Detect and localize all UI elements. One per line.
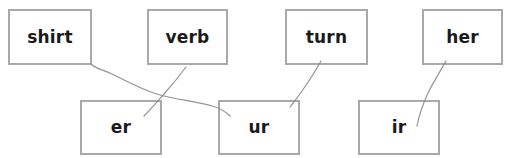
word-label-ur: ur xyxy=(249,119,270,136)
word-box-ir[interactable]: ir xyxy=(358,100,440,155)
word-box-her[interactable]: her xyxy=(422,9,503,65)
word-box-ur[interactable]: ur xyxy=(218,100,300,155)
word-label-turn: turn xyxy=(306,29,348,46)
word-label-shirt: shirt xyxy=(27,29,73,46)
word-box-er[interactable]: er xyxy=(80,100,162,155)
word-label-ir: ir xyxy=(392,119,407,136)
clipped-header-remnant xyxy=(0,0,511,5)
word-box-verb[interactable]: verb xyxy=(147,9,228,65)
matching-worksheet: shirtverbturnhererurir xyxy=(0,0,511,158)
word-box-turn[interactable]: turn xyxy=(285,9,368,65)
word-box-shirt[interactable]: shirt xyxy=(8,9,92,65)
word-label-er: er xyxy=(111,119,131,136)
word-label-her: her xyxy=(446,29,479,46)
word-label-verb: verb xyxy=(166,29,210,46)
